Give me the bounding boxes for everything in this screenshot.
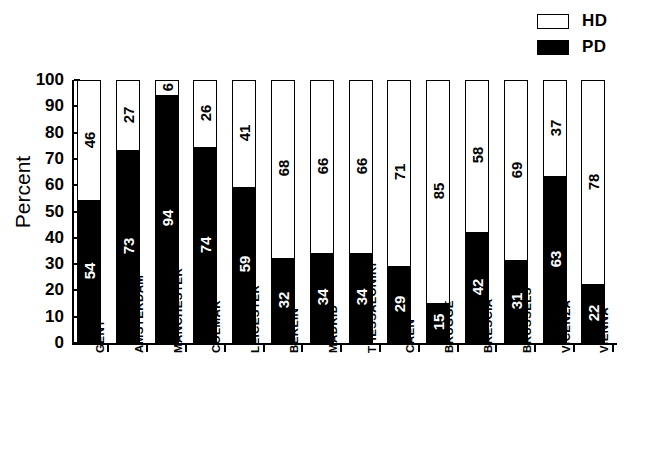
x-category-label: GENT [94, 319, 106, 353]
bar-value-label-hd: 66 [353, 157, 368, 174]
x-category-label: LEICESTER [249, 285, 261, 353]
bar-value-label-pd: 42 [470, 278, 485, 295]
bar-value-label-pd: 73 [120, 238, 135, 255]
bar-value-label-hd: 41 [237, 125, 252, 142]
bar-value-label-hd: 66 [314, 157, 329, 174]
bar-value-label-hd: 26 [198, 105, 213, 122]
x-category-label: AMSTERDAM [133, 275, 145, 353]
bar-value-label-hd: 69 [508, 161, 523, 178]
x-category-label: BERLIN [288, 308, 300, 353]
bar-value-label-pd: 59 [237, 256, 252, 273]
legend-swatch-pd-icon [537, 40, 569, 55]
x-tick-mark [224, 345, 226, 352]
legend-label-hd: HD [582, 11, 608, 31]
y-tick-label: 70 [24, 150, 64, 167]
x-category-label: BRUGGE [443, 300, 455, 353]
x-tick-mark [340, 345, 342, 352]
bar-value-label-hd: 58 [470, 147, 485, 164]
bar-value-label-pd: 94 [159, 210, 174, 227]
x-category-label: VIENNA [598, 307, 610, 353]
y-tick-label: 100 [24, 71, 64, 88]
bar-value-label-hd: 37 [547, 119, 562, 136]
x-tick-mark [263, 345, 265, 352]
x-category-label: BRUSSELS [521, 287, 533, 353]
bar-value-label-pd: 63 [547, 251, 562, 268]
x-category-label: BRESCIA [482, 298, 494, 353]
x-category-label: THESSALONIKI [366, 263, 378, 353]
x-tick-mark [301, 345, 303, 352]
legend-swatch-hd-icon [537, 14, 569, 29]
stacked-bar[interactable]: 2971 [387, 80, 411, 343]
bar-value-label-hd: 68 [276, 160, 291, 177]
legend-item-pd: PD [537, 34, 647, 60]
y-tick-label: 90 [24, 97, 64, 114]
stacked-bar[interactable]: 5446 [77, 80, 101, 343]
bar-value-label-pd: 74 [198, 236, 213, 253]
x-tick-mark [379, 345, 381, 352]
y-tick-label: 50 [24, 203, 64, 220]
bar-value-label-hd: 85 [431, 182, 446, 199]
bar-value-label-hd: 27 [120, 106, 135, 123]
stacked-bar[interactable]: 3268 [271, 80, 295, 343]
y-tick-label: 60 [24, 176, 64, 193]
x-tick-mark [612, 345, 614, 352]
bar-value-label-hd: 78 [586, 173, 601, 190]
y-tick-label: 10 [24, 308, 64, 325]
x-tick-mark [573, 345, 575, 352]
x-category-label: COLMAR [210, 300, 222, 353]
stacked-bar[interactable]: 2278 [581, 80, 605, 343]
bar-value-label-hd: 71 [392, 164, 407, 181]
x-category-label: MADRID [327, 305, 339, 353]
legend-item-hd: HD [537, 8, 647, 34]
plot-area: 5446732794674265941326834663466297115854… [72, 80, 617, 343]
x-tick-mark [495, 345, 497, 352]
x-tick-mark [534, 345, 536, 352]
bar-value-label-pd: 54 [82, 263, 97, 280]
y-tick-label: 40 [24, 229, 64, 246]
bar-value-label-hd: 46 [82, 131, 97, 148]
y-tick-label: 20 [24, 281, 64, 298]
y-tick-label: 80 [24, 124, 64, 141]
x-tick-mark [418, 345, 420, 352]
x-category-label: VICENZA [560, 300, 572, 353]
legend-label-pd: PD [582, 37, 607, 57]
stacked-bar[interactable]: 3466 [310, 80, 334, 343]
x-tick-mark [146, 345, 148, 352]
bar-value-label-pd: 32 [276, 292, 291, 309]
x-category-label: CAEN [404, 319, 416, 353]
x-tick-mark [457, 345, 459, 352]
y-tick-label: 0 [24, 334, 64, 351]
y-tick-label: 30 [24, 255, 64, 272]
bar-value-label-pd: 34 [314, 289, 329, 306]
bar-value-label-pd: 29 [392, 296, 407, 313]
x-category-label: MANCHESTER [172, 268, 184, 353]
x-tick-mark [185, 345, 187, 352]
x-tick-mark [107, 345, 109, 352]
bar-value-label-hd: 6 [159, 83, 174, 91]
chart-legend: HD PD [537, 8, 647, 60]
